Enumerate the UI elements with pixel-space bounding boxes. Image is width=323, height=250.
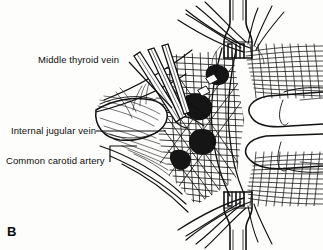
figure-panel-letter: B <box>7 224 16 239</box>
retractor-bottom <box>224 192 252 250</box>
label-internal-jugular-vein: Internal jugular vein <box>11 126 96 136</box>
retractor-top <box>224 0 252 58</box>
illustration-ink <box>96 0 323 250</box>
upper-muscle-fibers <box>246 44 323 98</box>
label-middle-thyroid-vein: Middle thyroid vein <box>38 55 119 65</box>
label-common-carotid-artery: Common carotid artery <box>6 156 105 166</box>
upper-tissue-contours <box>186 2 284 50</box>
